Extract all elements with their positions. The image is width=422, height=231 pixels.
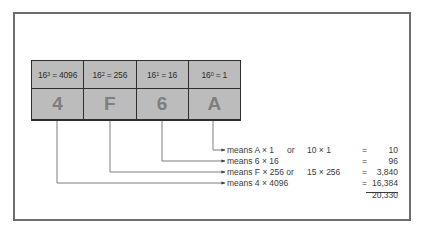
arrow-a [213,121,225,150]
total: 20,330 [358,190,398,200]
arrow-4 [57,121,225,183]
explanation-f-decimal: 15 × 256 [307,167,340,177]
arrow-f [110,121,225,172]
explanation-a-or: or [287,145,295,155]
explanation-f: means F × 256 or [227,167,294,177]
explanation-6: means 6 × 16 [227,156,279,166]
result-f: 3,840 [358,167,398,177]
result-4: 16,384 [358,178,398,188]
result-6: 96 [358,156,398,166]
result-a: 10 [358,145,398,155]
arrow-6 [162,121,225,161]
explanation-4: means 4 × 4096 [227,178,288,188]
explanation-a-decimal: 10 × 1 [307,145,331,155]
explanation-a: means A × 1 [227,145,274,155]
